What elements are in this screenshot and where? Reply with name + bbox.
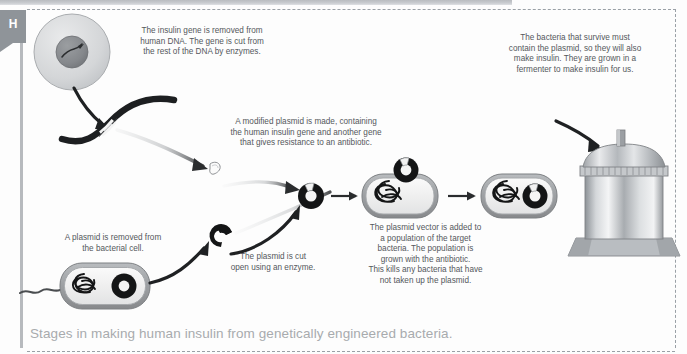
human-cell-figure	[34, 14, 110, 90]
note-insulin-gene: The insulin gene is removed from human D…	[104, 26, 300, 58]
note-modified-plasmid: A modified plasmid is made, containing t…	[206, 117, 406, 149]
dna-strand-figure	[62, 88, 208, 171]
transformed-bacterium-figure	[481, 174, 557, 218]
figure-caption: Stages in making human insulin from gene…	[30, 326, 453, 341]
diagram-page: H	[0, 0, 687, 354]
gene-fragment-figure	[210, 162, 220, 174]
fermenter-figure	[556, 121, 680, 256]
note-plasmid-removed: A plasmid is removed from the bacterial …	[38, 233, 188, 254]
target-bacterium-figure	[362, 158, 474, 219]
recombinant-plasmid-figure	[298, 183, 356, 209]
note-plasmid-cut: The plasmid is cut open using an enzyme.	[214, 252, 332, 273]
note-plasmid-vector: The plasmid vector is added to a populat…	[348, 223, 503, 287]
note-bacteria-survive: The bacteria that survive must contain t…	[480, 33, 670, 75]
